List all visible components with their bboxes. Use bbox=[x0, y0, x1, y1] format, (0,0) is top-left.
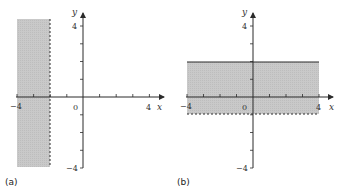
y-tick-label-neg4-a: −4 bbox=[66, 164, 78, 173]
panel-label-a: (a) bbox=[5, 177, 18, 187]
figure: y 4 −4 −4 0 4 x (a) bbox=[0, 0, 344, 194]
x-tick-label-neg4-a: −4 bbox=[10, 102, 22, 111]
x-axis-label-a: x bbox=[157, 102, 162, 112]
x-tick-label-4-a: 4 bbox=[146, 103, 151, 112]
panel-label-b: (b) bbox=[177, 177, 190, 187]
x-tick-label-4-b: 4 bbox=[316, 103, 321, 112]
y-tick-label-neg4-b: −4 bbox=[236, 164, 248, 173]
shaded-region-a bbox=[17, 19, 50, 167]
y-axis-label-a: y bbox=[71, 7, 78, 17]
x-tick-label-neg4-b: −4 bbox=[180, 102, 192, 111]
panel-a: y 4 −4 −4 0 4 x (a) bbox=[5, 7, 164, 187]
x-axis-label-b: x bbox=[329, 102, 334, 112]
panel-b: y 4 −4 −4 0 4 x (b) bbox=[177, 7, 334, 187]
y-tick-label-4-a: 4 bbox=[72, 22, 77, 31]
y-tick-label-4-b: 4 bbox=[242, 22, 247, 31]
origin-label-b: 0 bbox=[242, 103, 247, 112]
origin-label-a: 0 bbox=[73, 103, 78, 112]
y-axis-label-b: y bbox=[241, 7, 248, 17]
